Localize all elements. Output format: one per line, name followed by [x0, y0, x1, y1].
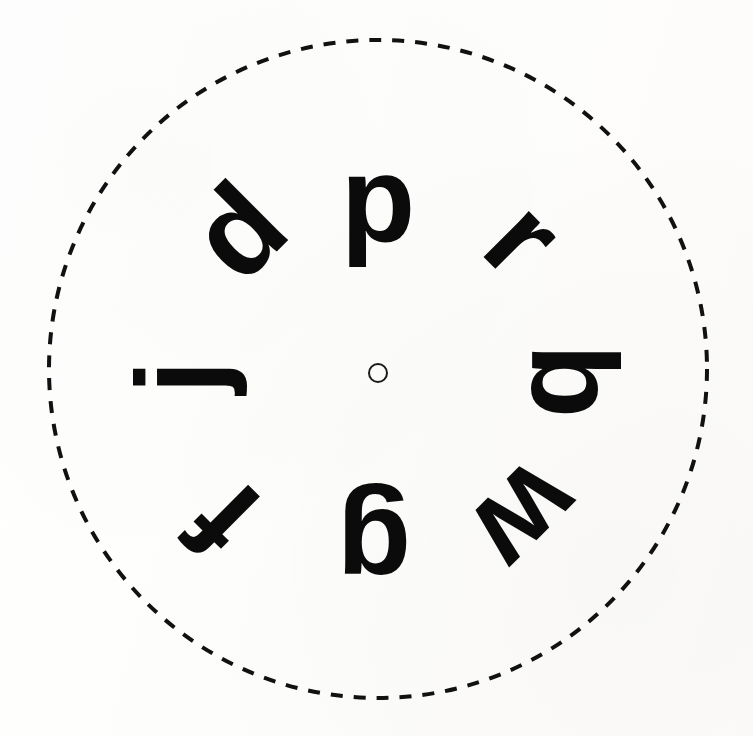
center-fixation-circle [368, 363, 388, 383]
stimulus-canvas: prbwgfjd [0, 0, 753, 736]
